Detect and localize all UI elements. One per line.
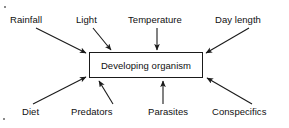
factor-label-day-length: Day length [215, 14, 261, 25]
developmental-influences-diagram: Developing organism Rainfall Light Tempe… [0, 0, 289, 128]
scan-speck [3, 118, 5, 120]
arrow-day-length [206, 28, 249, 53]
scan-speck [4, 6, 6, 8]
factor-label-predators: Predators [71, 106, 113, 117]
arrow-light [93, 28, 111, 50]
arrow-conspecifics [207, 78, 252, 104]
factor-label-conspecifics: Conspecifics [212, 106, 266, 117]
arrow-rainfall [36, 28, 86, 53]
arrow-diet [33, 77, 86, 104]
factor-label-temperature: Temperature [128, 14, 182, 25]
factor-label-light: Light [76, 14, 97, 25]
developing-organism-label: Developing organism [89, 60, 203, 71]
factor-label-parasites: Parasites [148, 106, 188, 117]
arrow-predators [99, 81, 113, 104]
factor-label-rainfall: Rainfall [10, 14, 42, 25]
factor-label-diet: Diet [22, 106, 39, 117]
